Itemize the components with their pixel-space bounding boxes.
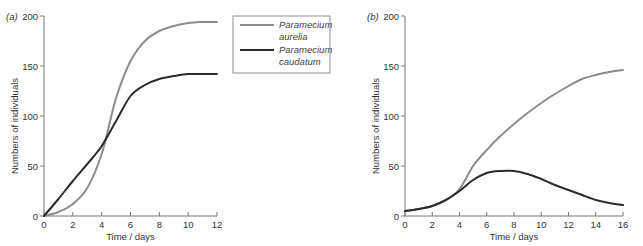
y-tick-label: 50 [27,161,38,172]
legend-label-caudatum-line2: caudatum [279,56,321,67]
x-axis-title-b: Time / days [490,231,539,242]
y-tick-label: 200 [383,11,399,22]
panel-label-b: (b) [367,11,379,22]
legend-label-aurelia-line1: Paramecium [279,19,332,30]
x-tick-label: 0 [402,219,407,230]
x-tick-label: 4 [457,219,462,230]
series-line-caudatum-b [405,171,623,211]
legend-label-caudatum-line1: Paramecium [279,44,332,55]
legend-label-aurelia-line2: aurelia [279,31,308,42]
y-tick-label: 0 [394,211,399,222]
x-tick-label: 0 [41,219,46,230]
y-axis-title-b: Numbers of individuals [370,78,381,174]
x-tick-label: 12 [563,219,574,230]
x-tick-label: 8 [511,219,516,230]
legend: Paramecium aurelia Paramecium caudatum [233,16,332,73]
y-tick-label: 150 [22,61,38,72]
x-axis-title-a: Time / days [106,231,155,242]
x-tick-label: 8 [157,219,162,230]
y-tick-label: 150 [383,61,399,72]
y-tick-label: 100 [383,111,399,122]
x-tick-label: 4 [99,219,104,230]
y-tick-label: 100 [22,111,38,122]
series-line-caudatum-a [44,74,217,216]
x-tick-label: 6 [484,219,489,230]
y-tick-label: 200 [22,11,38,22]
panel-label-a: (a) [6,11,18,22]
series-line-aurelia-a [44,22,217,216]
x-tick-label: 10 [183,219,194,230]
x-tick-label: 2 [430,219,435,230]
chart-panel-a: 050100150200024681012Time / daysNumbers … [6,11,222,243]
x-tick-label: 14 [590,219,601,230]
y-axis-title-a: Numbers of individuals [9,78,20,174]
series-line-aurelia-b [405,70,623,211]
chart-panel-b: 0501001502000246810121416Time / daysNumb… [367,11,628,243]
x-tick-label: 2 [70,219,75,230]
y-tick-label: 50 [388,161,399,172]
x-tick-label: 16 [618,219,629,230]
x-tick-label: 12 [212,219,223,230]
x-tick-label: 10 [536,219,547,230]
figure-canvas: 050100150200024681012Time / daysNumbers … [0,0,643,246]
x-tick-label: 6 [128,219,133,230]
y-tick-label: 0 [33,211,38,222]
